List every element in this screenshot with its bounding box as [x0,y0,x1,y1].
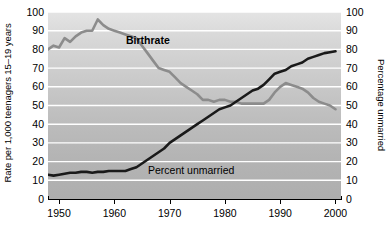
gridlines [48,12,341,180]
x-tick-label: 1950 [39,207,79,219]
series-label-birthrate: Birthrate [126,34,170,46]
y-tick-label-right: 100 [346,6,370,18]
x-tick-mark [114,200,115,204]
y-tick-label-right: 10 [346,174,370,186]
y-tick-label-right: 70 [346,62,370,74]
y-tick-label-left: 100 [22,6,44,18]
y-axis-title-left-text: Rate per 1,000 teenagers 15–19 years [2,23,13,182]
y-tick-label-right: 60 [346,80,370,92]
x-axis-line [48,199,342,200]
x-tick-mark [59,200,60,204]
y-tick-label-left: 10 [22,174,44,186]
y-axis-title-right: Percentage unmarried [374,10,388,200]
y-tick-label-left: 0 [22,193,44,205]
y-axis-title-left: Rate per 1,000 teenagers 15–19 years [0,0,14,205]
y-tick-label-left: 90 [22,24,44,36]
y-tick-label-left: 50 [22,99,44,111]
x-tick-mark [170,200,171,204]
y-axis-title-right-text: Percentage unmarried [376,59,387,151]
y-tick-label-right: 40 [346,118,370,130]
x-tick-label: 1960 [94,207,134,219]
y-tick-label-left: 80 [22,43,44,55]
x-tick-label: 1980 [205,207,245,219]
y-tick-label-right: 0 [346,193,370,205]
y-tick-label-left: 40 [22,118,44,130]
x-tick-mark [225,200,226,204]
y-tick-label-right: 90 [346,24,370,36]
x-tick-label: 2000 [315,207,355,219]
x-axis-right-cap [341,196,342,200]
x-tick-mark [280,200,281,204]
series-label-percent-unmarried: Percent unmarried [148,164,234,176]
y-tick-label-left: 30 [22,136,44,148]
x-tick-label: 1990 [260,207,300,219]
x-tick-label: 1970 [150,207,190,219]
series-line-percent-unmarried [48,51,335,175]
x-axis-left-cap [48,196,49,200]
y-tick-label-right: 80 [346,43,370,55]
y-tick-label-right: 30 [346,136,370,148]
y-tick-label-right: 50 [346,99,370,111]
chart-figure: Rate per 1,000 teenagers 15–19 years Per… [0,0,390,236]
y-tick-label-left: 20 [22,155,44,167]
y-tick-label-left: 60 [22,80,44,92]
series-lines [48,19,335,175]
series-line-birthrate [48,19,335,109]
y-tick-label-left: 70 [22,62,44,74]
y-tick-label-right: 20 [346,155,370,167]
x-tick-mark [335,200,336,204]
